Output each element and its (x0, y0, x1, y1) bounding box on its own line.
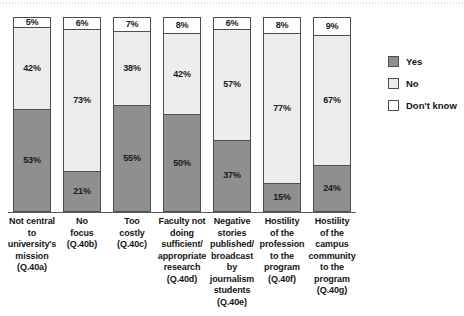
chart-legend: YesNoDon't know (388, 52, 464, 118)
bar-3-label-dont-know: 7% (126, 20, 139, 29)
category-label-line: (Q.40g) (302, 285, 362, 297)
bar-4-segment-yes: 50% (163, 114, 201, 212)
bar-6-label-no: 77% (273, 104, 290, 113)
bar-4-label-no: 42% (173, 70, 190, 79)
bar-2-label-dont-know: 6% (76, 19, 89, 28)
legend-item-no[interactable]: No (388, 74, 464, 93)
bar-5-segment-yes: 37% (213, 140, 251, 212)
legend-swatch-yes (388, 56, 399, 67)
bar-3-segment-no: 38% (113, 31, 151, 105)
category-label-line: (Q.40a) (2, 262, 62, 274)
bar-6-label-dont-know: 8% (276, 21, 289, 30)
bar-1-label-dont-know: 5% (26, 18, 39, 27)
category-label-line: students (202, 285, 262, 297)
legend-item-don-t-know[interactable]: Don't know (388, 96, 464, 115)
bar-1-segment-yes: 53% (13, 109, 51, 212)
bar-1-label-yes: 53% (23, 156, 40, 165)
bar-5-label-dont-know: 6% (226, 19, 239, 28)
bar-2-segment-yes: 21% (63, 171, 101, 212)
bar-1-label-no: 42% (23, 64, 40, 73)
category-label-line: program (302, 274, 362, 286)
bar-6-segment-no: 77% (263, 33, 301, 183)
category-label-line: campus (302, 239, 362, 251)
category-label-line: mission (2, 251, 62, 263)
bar-3-label-no: 38% (123, 64, 140, 73)
bar-6-segment-dont-know: 8% (263, 17, 301, 33)
x-axis-baseline (8, 212, 356, 213)
bar-1-segment-dont-know: 5% (13, 17, 51, 27)
category-label-line: Hostility (302, 216, 362, 228)
bar-6-label-yes: 15% (273, 193, 290, 202)
bar-5-label-no: 57% (223, 80, 240, 89)
bar-2-segment-dont-know: 6% (63, 17, 101, 29)
category-label-line: (Q.40e) (202, 297, 262, 309)
bar-3-segment-yes: 55% (113, 105, 151, 212)
bar-7-segment-yes: 24% (313, 165, 351, 212)
legend-label: No (406, 79, 419, 89)
bar-7-label-dont-know: 9% (326, 22, 339, 31)
bar-2-label-no: 73% (73, 96, 90, 105)
bar-7-segment-no: 67% (313, 35, 351, 166)
category-label-line: of the (302, 228, 362, 240)
bar-4: 8%42%50% (163, 17, 201, 212)
category-label-line: to the (302, 262, 362, 274)
bar-3: 7%38%55% (113, 17, 151, 212)
bar-4-label-dont-know: 8% (176, 21, 189, 30)
legend-label: Yes (406, 57, 422, 67)
bar-1-segment-no: 42% (13, 27, 51, 109)
bar-5-segment-no: 57% (213, 29, 251, 140)
x-axis-category-labels: Not centraltouniversity'smission(Q.40a)N… (0, 216, 360, 316)
bar-2: 6%73%21% (63, 17, 101, 212)
bar-2-label-yes: 21% (73, 187, 90, 196)
bar-2-segment-no: 73% (63, 29, 101, 171)
legend-item-yes[interactable]: Yes (388, 52, 464, 71)
bar-6: 8%77%15% (263, 17, 301, 212)
legend-swatch-no (388, 78, 399, 89)
bar-3-segment-dont-know: 7% (113, 17, 151, 31)
bar-5-segment-dont-know: 6% (213, 17, 251, 29)
bar-7: 9%67%24% (313, 17, 351, 212)
plot-area: 5%42%53%6%73%21%7%38%55%8%42%50%6%57%37%… (0, 17, 360, 213)
bar-4-segment-no: 42% (163, 33, 201, 115)
category-label-line: community (302, 251, 362, 263)
legend-swatch-dont-know (388, 100, 399, 111)
category-label-7: Hostilityof thecampuscommunityto theprog… (302, 216, 362, 297)
bar-7-segment-dont-know: 9% (313, 17, 351, 35)
bar-7-label-yes: 24% (323, 184, 340, 193)
bar-1: 5%42%53% (13, 17, 51, 212)
bar-4-segment-dont-know: 8% (163, 17, 201, 33)
bar-7-label-no: 67% (323, 96, 340, 105)
bar-3-label-yes: 55% (123, 154, 140, 163)
bar-6-segment-yes: 15% (263, 183, 301, 212)
legend-label: Don't know (406, 101, 457, 111)
bar-5-label-yes: 37% (223, 171, 240, 180)
bar-5: 6%57%37% (213, 17, 251, 212)
bar-4-label-yes: 50% (173, 159, 190, 168)
stacked-bar-chart: 5%42%53%6%73%21%7%38%55%8%42%50%6%57%37%… (0, 0, 464, 316)
